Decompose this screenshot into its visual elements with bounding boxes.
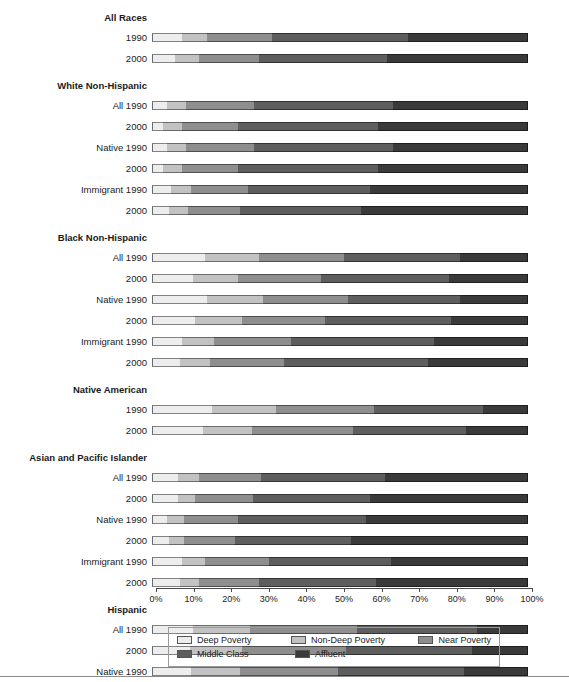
bar-segment-non-deep-poverty [169, 536, 184, 545]
bar-segment-non-deep-poverty [182, 337, 214, 346]
bar-row-label: All 1990 [0, 252, 152, 263]
bar-segment-near-poverty [191, 185, 247, 194]
bar-segment-near-poverty [252, 426, 354, 435]
bar-segment-near-poverty [199, 578, 259, 587]
bar-row: 2000 [0, 51, 569, 65]
bar-segment-deep-poverty [152, 426, 203, 435]
bar-segment-non-deep-poverty [167, 515, 184, 524]
stacked-bar [152, 122, 528, 131]
bar-segment-deep-poverty [152, 557, 182, 566]
bar-segment-affluent [428, 358, 528, 367]
bar-row-label: 1990 [0, 32, 152, 43]
bar-segment-affluent [464, 667, 528, 676]
bar-segment-middle-class [240, 206, 360, 215]
bar-segment-non-deep-poverty [207, 295, 263, 304]
bar-segment-affluent [361, 206, 528, 215]
bar-segment-near-poverty [242, 316, 325, 325]
stacked-bar [152, 536, 528, 545]
bar-segment-deep-poverty [152, 143, 167, 152]
bar-segment-affluent [449, 274, 528, 283]
axis-tick [419, 588, 420, 592]
bar-segment-middle-class [238, 122, 377, 131]
legend-label-near-poverty: Near Poverty [438, 635, 491, 645]
bar-segment-affluent [370, 185, 528, 194]
bar-segment-middle-class [284, 358, 429, 367]
bar-row: 2000 [0, 313, 569, 327]
axis-tick-label: 0% [149, 594, 162, 604]
bar-row-label: 2000 [0, 425, 152, 436]
bar-segment-non-deep-poverty [212, 405, 276, 414]
bar-segment-near-poverty [199, 473, 261, 482]
bar-segment-affluent [460, 253, 528, 262]
bar-segment-middle-class [259, 54, 387, 63]
bar-segment-near-poverty [186, 101, 254, 110]
bar-segment-near-poverty [238, 274, 321, 283]
bar-segment-affluent [376, 578, 528, 587]
bar-segment-non-deep-poverty [169, 206, 188, 215]
bar-segment-middle-class [253, 494, 370, 503]
bar-segment-deep-poverty [152, 122, 163, 131]
stacked-bar [152, 274, 528, 283]
bar-segment-non-deep-poverty [175, 54, 199, 63]
bar-segment-middle-class [353, 426, 466, 435]
bar-segment-non-deep-poverty [182, 557, 205, 566]
bar-segment-affluent [393, 143, 528, 152]
legend-swatch-near-poverty [418, 636, 433, 644]
bar-segment-middle-class [348, 295, 461, 304]
bar-segment-middle-class [235, 536, 352, 545]
bar-segment-non-deep-poverty [167, 101, 186, 110]
legend-row-1: Deep Poverty Non-Deep Poverty Near Pover… [177, 633, 491, 647]
bar-segment-non-deep-poverty [191, 667, 240, 676]
stacked-bar [152, 557, 528, 566]
bar-segment-deep-poverty [152, 494, 178, 503]
bar-row-label: Immigrant 1990 [0, 184, 152, 195]
bar-segment-middle-class [254, 101, 393, 110]
bar-row: Immigrant 1990 [0, 182, 569, 196]
bar-segment-near-poverty [182, 122, 238, 131]
legend-item-middle-class: Middle Class [177, 649, 295, 659]
bar-row-label: 2000 [0, 493, 152, 504]
bar-segment-middle-class [269, 557, 391, 566]
legend-label-middle-class: Middle Class [197, 649, 249, 659]
stacked-bar [152, 473, 528, 482]
bar-row-label: Native 1990 [0, 514, 152, 525]
bar-segment-non-deep-poverty [163, 122, 182, 131]
bar-segment-near-poverty [186, 143, 254, 152]
bar-segment-deep-poverty [152, 164, 163, 173]
bar-row: All 1990 [0, 98, 569, 112]
axis-tick [306, 588, 307, 592]
bar-row-label: 2000 [0, 273, 152, 284]
bar-segment-non-deep-poverty [193, 274, 238, 283]
stacked-bar [152, 33, 528, 42]
bar-row-label: Immigrant 1990 [0, 336, 152, 347]
bar-segment-middle-class [238, 515, 366, 524]
group-header: White Non-Hispanic [0, 78, 569, 92]
bar-segment-middle-class [344, 253, 461, 262]
bar-row: 2000 [0, 575, 569, 589]
bar-row: Native 1990 [0, 292, 569, 306]
group-title: Hispanic [0, 604, 152, 615]
bar-segment-affluent [434, 337, 528, 346]
axis-tick-label: 90% [485, 594, 503, 604]
bar-row: 2000 [0, 119, 569, 133]
bar-segment-deep-poverty [152, 405, 212, 414]
bar-segment-non-deep-poverty [203, 426, 252, 435]
axis-tick-label: 20% [222, 594, 240, 604]
group-title: White Non-Hispanic [0, 80, 152, 91]
bar-segment-deep-poverty [152, 536, 169, 545]
bar-row: 2000 [0, 491, 569, 505]
bar-row-label: Native 1990 [0, 142, 152, 153]
legend-swatch-affluent [295, 650, 310, 658]
bar-segment-middle-class [248, 185, 370, 194]
bar-segment-affluent [393, 101, 528, 110]
bar-segment-affluent [387, 54, 528, 63]
axis-tick-label: 30% [260, 594, 278, 604]
group-header: All Races [0, 10, 569, 24]
group-title: Black Non-Hispanic [0, 232, 152, 243]
stacked-bar [152, 253, 528, 262]
bar-segment-deep-poverty [152, 185, 171, 194]
bar-segment-near-poverty [210, 358, 283, 367]
bar-segment-non-deep-poverty [163, 164, 182, 173]
axis-tick-label: 70% [410, 594, 428, 604]
stacked-bar [152, 164, 528, 173]
